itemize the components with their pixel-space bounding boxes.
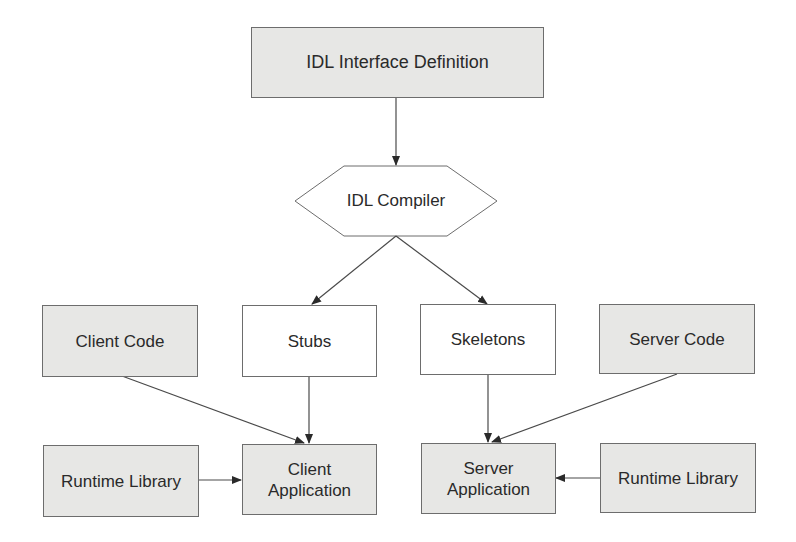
node-label: IDL Interface Definition [306, 52, 488, 73]
node-client-code: Client Code [42, 305, 198, 377]
node-label: Runtime Library [61, 471, 181, 492]
node-label-line2: Application [268, 480, 351, 501]
node-label: Stubs [288, 331, 331, 352]
node-idl-compiler: IDL Compiler [295, 166, 497, 236]
node-label: Server Code [629, 329, 724, 350]
edge-compiler-to-skeletons [396, 236, 487, 304]
node-skeletons: Skeletons [420, 304, 556, 375]
node-label-line1: Client [288, 459, 331, 480]
node-label-line2: Application [447, 479, 530, 500]
node-stubs: Stubs [242, 305, 377, 377]
node-client-application: Client Application [242, 444, 377, 515]
edge-server-code-to-server-app [492, 374, 677, 442]
node-server-code: Server Code [599, 304, 755, 374]
edge-compiler-to-stubs [312, 236, 396, 304]
node-idl-interface-definition: IDL Interface Definition [251, 27, 544, 98]
node-label: IDL Compiler [347, 191, 446, 211]
node-runtime-library-client: Runtime Library [43, 445, 199, 517]
node-label: Client Code [76, 331, 165, 352]
edge-client-code-to-client-app [122, 376, 304, 443]
node-server-application: Server Application [421, 443, 556, 514]
node-label: Skeletons [451, 329, 526, 350]
node-runtime-library-server: Runtime Library [600, 443, 756, 513]
node-label: Runtime Library [618, 468, 738, 489]
node-label-line1: Server [463, 458, 513, 479]
